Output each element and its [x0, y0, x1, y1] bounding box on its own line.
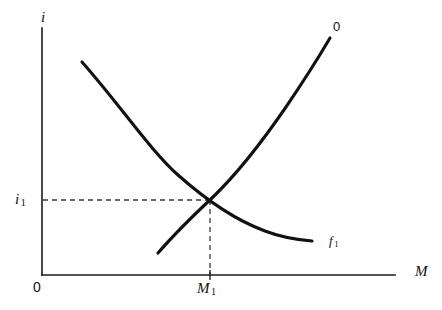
money-demand-curve-label: f1	[329, 234, 339, 247]
figure-container: i M 0 i1 M1 0 f1	[0, 0, 442, 310]
equilibrium-rate-symbol: i	[15, 191, 19, 207]
equilibrium-rate-subscript: 1	[21, 197, 26, 208]
money-demand-symbol: f	[329, 233, 333, 248]
equilibrium-quantity-label: M1	[197, 281, 216, 296]
money-market-chart	[0, 0, 442, 310]
money-supply-curve-label: 0	[333, 20, 340, 33]
origin-label: 0	[33, 280, 41, 294]
x-axis-label: M	[415, 264, 428, 279]
y-axis-label: i	[41, 10, 45, 25]
equilibrium-rate-label: i1	[15, 192, 26, 207]
equilibrium-quantity-subscript: 1	[211, 286, 216, 297]
money-demand-subscript: 1	[334, 239, 338, 249]
equilibrium-quantity-symbol: M	[197, 280, 210, 296]
